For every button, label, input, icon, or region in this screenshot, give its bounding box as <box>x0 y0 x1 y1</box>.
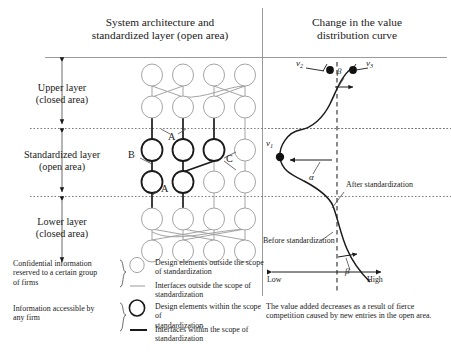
legend-group-accessible-line1: Information accessible by <box>13 304 121 313</box>
network-annotation-c: C <box>226 153 233 165</box>
curve-label-nu3: ν3 <box>366 58 373 69</box>
curve-label-nu2-sub: 2 <box>300 62 303 69</box>
beta-arrow-bottom <box>338 254 357 257</box>
network-annotation-a-top: A <box>168 131 175 143</box>
legend-group-confidential-line2: reserved to a certain group <box>13 268 121 277</box>
point-nu3 <box>349 66 357 74</box>
axis-label-standardized-line2: (open area) <box>2 161 122 173</box>
legend-entry-interfaces-within-line2: standardization <box>155 334 267 343</box>
axis-label-lower-line1: Lower layer <box>8 216 116 228</box>
network-thin-nodes <box>142 64 256 262</box>
axis-label-upper-line2: (closed area) <box>8 94 116 106</box>
right-panel-caption-line2: competition caused by new entries in the… <box>266 311 446 320</box>
legend-entry-design-elements-outside: Design elements outside the scope of sta… <box>155 258 267 277</box>
legend-entry-design-outside-line1: Design elements outside the scope <box>155 258 267 267</box>
legend-group-confidential: Confidential information reserved to a c… <box>13 259 121 287</box>
network-annotation-b: B <box>128 149 135 161</box>
axis-label-lower-layer: Lower layer (closed area) <box>8 216 116 240</box>
right-panel-title: Change in the value distribution curve <box>272 16 442 43</box>
legend-entry-design-within-line1: Design elements within the scope of <box>155 302 267 321</box>
after-standardization-leader <box>332 192 344 208</box>
scale-label-high: High <box>367 275 383 284</box>
right-panel-caption-line1: The value added decreases as a result of… <box>266 302 446 311</box>
legend-icon-thin-circle <box>130 257 144 272</box>
legend-entry-design-outside-line2: of standardization <box>155 267 267 276</box>
axis-label-lower-line2: (closed area) <box>8 228 116 240</box>
right-panel-title-line1: Change in the value <box>272 16 442 29</box>
curve-label-nu3-sub: 3 <box>370 62 373 69</box>
curve-label-beta-bottom: β <box>345 266 349 277</box>
legend-group-accessible: Information accessible by any firm <box>13 304 121 323</box>
curve-label-beta-top: β <box>337 66 341 77</box>
annotation-after-standardization: After standardization <box>346 180 413 189</box>
legend-group-accessible-line2: any firm <box>13 313 121 322</box>
legend-entry-interfaces-outside: Interfaces outside the scope of standard… <box>155 281 267 300</box>
right-panel-title-line2: distribution curve <box>272 29 442 42</box>
annotation-before-standardization: Before standardization <box>263 236 335 245</box>
point-nu1 <box>276 153 284 161</box>
curve-label-nu2: ν2 <box>296 58 303 69</box>
scale-label-low: Low <box>267 275 281 284</box>
legend-group-confidential-line3: of firms <box>13 278 121 287</box>
curve-label-nu1: ν1 <box>266 138 273 149</box>
legend-group-confidential-line1: Confidential information <box>13 259 121 268</box>
legend-entry-interfaces-outside-line1: Interfaces outside the scope of <box>155 281 267 290</box>
legend-icon-bold-circle <box>129 300 144 316</box>
right-panel-caption: The value added decreases as a result of… <box>266 302 446 321</box>
axis-label-standardized-line1: Standardized layer <box>2 149 122 161</box>
point-nu2 <box>326 66 334 74</box>
legend-entry-interfaces-within-line1: Interfaces within the scope of <box>155 325 267 334</box>
axis-label-standardized-layer: Standardized layer (open area) <box>2 149 122 173</box>
value-distribution-curve <box>280 68 370 282</box>
left-panel-title-line1: System architecture and <box>60 16 260 29</box>
alpha-leader <box>313 162 320 174</box>
axis-label-upper-line1: Upper layer <box>8 82 116 94</box>
curve-label-nu1-sub: 1 <box>270 142 273 149</box>
axis-label-upper-layer: Upper layer (closed area) <box>8 82 116 106</box>
legend-entry-interfaces-within: Interfaces within the scope of standardi… <box>155 325 267 344</box>
curve-label-alpha: α <box>309 172 314 183</box>
legend-entry-interfaces-outside-line2: standardization <box>155 290 267 299</box>
left-panel-title: System architecture and standardized lay… <box>60 16 260 43</box>
network-annotation-a-bottom: A <box>161 183 168 195</box>
figure-root: System architecture and standardized lay… <box>0 0 451 364</box>
left-panel-title-line2: standardized layer (open area) <box>60 29 260 42</box>
